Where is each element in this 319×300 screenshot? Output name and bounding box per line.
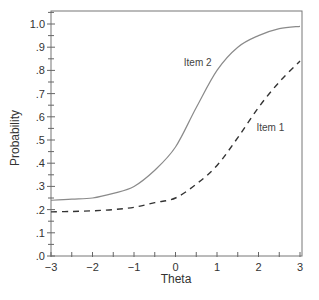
series-line-item-2 (51, 26, 300, 200)
annotation-layer: Item 2Item 1 (184, 57, 285, 133)
y-tick-label: .6 (36, 111, 45, 123)
series-label-item-1: Item 1 (256, 122, 284, 133)
x-tick-label: −3 (45, 261, 58, 273)
series-label-item-2: Item 2 (184, 57, 212, 68)
series-line-item-1 (51, 61, 300, 212)
x-tick-label: 1 (214, 261, 220, 273)
x-axis-title: Theta (161, 272, 192, 286)
y-tick-label: .8 (36, 64, 45, 76)
x-tick-label: −1 (128, 261, 141, 273)
irt-probability-chart: .0.1.2.3.4.5.6.7.8.91.0 −3−2−10123 Item … (0, 0, 319, 300)
y-tick-label: .9 (36, 41, 45, 53)
x-tick-label: 3 (297, 261, 303, 273)
plot-frame (51, 11, 302, 256)
x-tick-label: −2 (86, 261, 99, 273)
y-tick-label: .2 (36, 204, 45, 216)
plot-border (51, 11, 302, 256)
y-axis-title: Probability (8, 110, 22, 166)
y-tick-label: .3 (36, 180, 45, 192)
y-tick-label: .4 (36, 157, 45, 169)
series-layer (51, 26, 300, 212)
y-tick-label: .1 (36, 227, 45, 239)
y-tick-label: .0 (36, 250, 45, 262)
x-axis: −3−2−10123 (45, 252, 303, 273)
y-tick-label: 1.0 (30, 18, 45, 30)
y-tick-label: .5 (36, 134, 45, 146)
x-tick-label: 2 (255, 261, 261, 273)
y-tick-label: .7 (36, 88, 45, 100)
